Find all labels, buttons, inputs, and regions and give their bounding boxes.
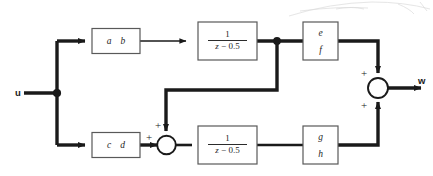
sign-middle-from-feedback: + [155,120,161,131]
block-gain-cd-content: c d [92,133,140,158]
block-diagram-figure: u w a b c d e f g h 1 z − 0.5 1 z − 0.5 … [0,0,433,176]
wire-gain-gh-to-sum-output [338,102,378,145]
gain-ab-letter-a: a [107,36,112,46]
transfer-top-denominator-rest: − 0.5 [219,41,240,51]
sum-junction-output [368,78,388,98]
wire-gain-ef-to-sum-output [338,41,378,73]
block-gain-gh-content: g h [303,126,338,164]
gain-ef-letter-f: f [319,45,322,55]
gain-ef-letter-e: e [318,28,322,38]
scan-artifact-marks [289,2,430,16]
output-label-w: w [418,76,426,86]
gain-gh-letter-h: h [318,149,323,159]
block-transfer-top-content: 1 z − 0.5 [208,22,247,60]
gain-ab-letter-b: b [121,36,126,46]
gain-cd-letter-d: d [120,140,125,150]
input-label-u: u [15,88,21,98]
sum-junction-middle [157,136,176,155]
transfer-top-denominator: z − 0.5 [213,41,241,51]
sign-middle-from-gain-cd: + [146,132,152,143]
transfer-bottom-denominator: z − 0.5 [213,145,241,155]
block-gain-ef-content: e f [303,22,338,60]
transfer-bottom-denominator-rest: − 0.5 [219,145,240,155]
sign-output-from-top-branch: + [361,68,367,79]
node-input-branch [53,89,61,97]
sign-output-from-bottom-branch: + [361,100,367,111]
transfer-top-numerator: 1 [219,30,236,40]
block-gain-ab-content: a b [92,29,140,54]
gain-cd-letter-c: c [107,140,111,150]
transfer-bottom-numerator: 1 [219,134,236,144]
block-transfer-bottom-content: 1 z − 0.5 [208,126,247,164]
gain-gh-letter-g: g [318,132,323,142]
